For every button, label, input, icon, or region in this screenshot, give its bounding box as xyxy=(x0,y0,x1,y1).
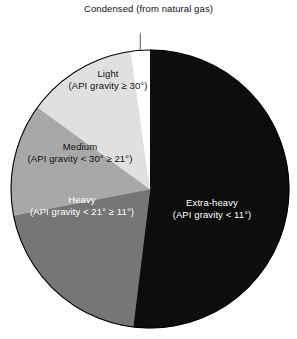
slice-label-light-line2: (API gravity ≥ 30°) xyxy=(68,79,147,91)
slice-label-condensed: Condensed (from natural gas) xyxy=(0,3,297,15)
slice-label-condensed-line1: Condensed xyxy=(84,3,134,14)
pie-slices xyxy=(11,50,289,328)
pie-chart: Condensed (from natural gas) Extra-heavy… xyxy=(0,0,297,339)
slice-label-medium: Medium (API gravity < 30° ≥ 21°) xyxy=(28,141,133,164)
slice-label-extra-heavy-line2: (API gravity < 11°) xyxy=(173,208,252,220)
slice-label-heavy-line2: (API gravity < 21° ≥ 11°) xyxy=(30,205,134,217)
pie-slice-extra-heavy[interactable] xyxy=(133,50,289,328)
slice-label-heavy-line1: Heavy xyxy=(30,194,134,206)
slice-label-light-line1: Light xyxy=(68,68,147,80)
slice-label-condensed-line2: (from natural gas) xyxy=(136,3,213,14)
slice-label-extra-heavy-line1: Extra-heavy xyxy=(173,197,252,209)
pie-chart-canvas xyxy=(0,0,297,339)
slice-label-extra-heavy: Extra-heavy (API gravity < 11°) xyxy=(173,197,252,220)
slice-label-heavy: Heavy (API gravity < 21° ≥ 11°) xyxy=(30,194,134,217)
slice-label-light: Light (API gravity ≥ 30°) xyxy=(68,68,147,91)
slice-label-medium-line1: Medium xyxy=(28,141,133,153)
slice-label-medium-line2: (API gravity < 30° ≥ 21°) xyxy=(28,152,133,164)
